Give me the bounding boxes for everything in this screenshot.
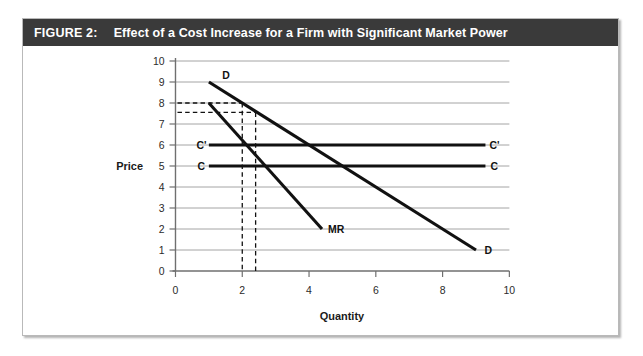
curve-label-c-prime-left: C' (196, 140, 206, 151)
y-tick-label-5: 5 (159, 161, 165, 172)
figure-title: Effect of a Cost Increase for a Firm wit… (114, 26, 508, 40)
curve-label-c-prime-right: C' (489, 140, 499, 151)
x-tick-label-8: 8 (440, 285, 446, 296)
y-tick-label-1: 1 (159, 245, 165, 256)
y-tick-label-10: 10 (153, 56, 165, 67)
y-tick-label-6: 6 (159, 140, 165, 151)
x-tick-label-2: 2 (239, 285, 245, 296)
economics-line-chart: 10 9 8 7 6 5 4 3 2 1 0 0 2 4 6 8 10 (23, 46, 618, 337)
y-axis-title: Price (116, 160, 143, 172)
gridlines-horizontal (175, 61, 509, 250)
x-tick-label-6: 6 (373, 285, 379, 296)
y-tick-label-9: 9 (159, 77, 165, 88)
y-tick-label-4: 4 (159, 182, 165, 193)
x-axis-ticks (175, 271, 509, 277)
curve-label-d-end: D (484, 245, 492, 256)
y-tick-label-2: 2 (159, 224, 165, 235)
curve-label-mr: MR (328, 224, 345, 235)
x-tick-label-10: 10 (504, 285, 516, 296)
figure-number: FIGURE 2: (34, 26, 98, 40)
curve-label-c-right: C (490, 161, 498, 172)
y-axis-ticks (170, 61, 176, 271)
figure-header-bar: FIGURE 2: Effect of a Cost Increase for … (23, 19, 618, 46)
x-tick-label-0: 0 (173, 285, 179, 296)
figure-container: FIGURE 2: Effect of a Cost Increase for … (22, 18, 619, 336)
y-tick-label-3: 3 (159, 203, 165, 214)
chart-plot-area: 10 9 8 7 6 5 4 3 2 1 0 0 2 4 6 8 10 (23, 46, 618, 337)
y-tick-label-7: 7 (159, 119, 165, 130)
y-tick-label-8: 8 (159, 98, 165, 109)
x-tick-label-4: 4 (306, 285, 312, 296)
y-tick-label-0: 0 (159, 266, 165, 277)
curve-label-d-start: D (222, 70, 230, 81)
curve-label-c-left: C (197, 161, 205, 172)
x-axis-title: Quantity (320, 310, 365, 322)
